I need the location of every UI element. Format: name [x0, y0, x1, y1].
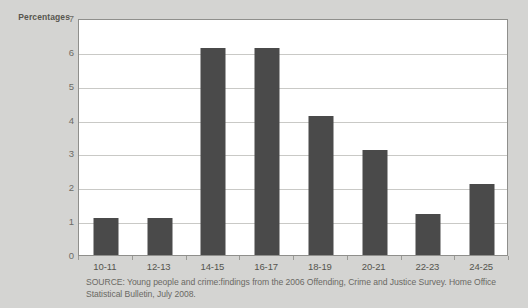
- plot-area: [78, 19, 508, 256]
- bar[interactable]: [93, 218, 118, 255]
- source-note: SOURCE: Young people and crime:findings …: [86, 277, 516, 300]
- x-axis-tick-label: 16-17: [254, 261, 278, 272]
- bar[interactable]: [201, 48, 226, 255]
- x-axis-tick-mark: [454, 256, 455, 260]
- y-axis-tick-label: 6: [54, 48, 74, 58]
- bar-slot: [402, 20, 456, 255]
- x-axis-tick-label: 24-25: [469, 261, 493, 272]
- figure-container: Percentages 01234567 10-1112-1314-1516-1…: [0, 0, 528, 308]
- bar-slot: [455, 20, 509, 255]
- x-axis-tick-mark: [78, 256, 79, 260]
- x-axis-tick-mark: [347, 256, 348, 260]
- source-note-line-2: Statistical Bulletin, July 2008.: [86, 289, 516, 301]
- bar-slot: [133, 20, 187, 255]
- bars-group: [79, 20, 507, 255]
- bar-slot: [294, 20, 348, 255]
- bar-slot: [240, 20, 294, 255]
- bar-slot: [187, 20, 241, 255]
- bar[interactable]: [308, 116, 333, 255]
- bar[interactable]: [470, 184, 495, 255]
- bar[interactable]: [362, 150, 387, 255]
- y-axis-tick-label: 0: [54, 251, 74, 261]
- y-axis-tick-label: 1: [54, 217, 74, 227]
- x-axis-tick-label: 22-23: [415, 261, 439, 272]
- x-axis-tick-mark: [401, 256, 402, 260]
- x-axis-tick-labels: 10-1112-1314-1516-1718-1920-2122-2324-25: [78, 256, 508, 278]
- x-axis-tick-mark: [239, 256, 240, 260]
- x-axis-tick-mark: [293, 256, 294, 260]
- x-axis-tick-label: 20-21: [362, 261, 386, 272]
- x-axis-tick-label: 14-15: [200, 261, 224, 272]
- bar[interactable]: [416, 214, 441, 255]
- x-axis-tick-mark: [132, 256, 133, 260]
- x-axis-tick-mark: [508, 256, 509, 260]
- x-axis-tick-label: 18-19: [308, 261, 332, 272]
- x-axis-tick-mark: [186, 256, 187, 260]
- bar[interactable]: [255, 48, 280, 255]
- bar-slot: [79, 20, 133, 255]
- y-axis-tick-label: 2: [54, 183, 74, 193]
- bar[interactable]: [147, 218, 172, 255]
- x-axis-tick-label: 12-13: [147, 261, 171, 272]
- y-axis-tick-labels: 01234567: [50, 19, 74, 256]
- y-axis-tick-label: 3: [54, 149, 74, 159]
- x-axis-tick-label: 10-11: [93, 261, 116, 272]
- y-axis-tick-label: 7: [54, 14, 74, 24]
- y-axis-tick-label: 4: [54, 116, 74, 126]
- bar-slot: [348, 20, 402, 255]
- source-note-line-1: SOURCE: Young people and crime:findings …: [86, 277, 516, 289]
- y-axis-tick-label: 5: [54, 82, 74, 92]
